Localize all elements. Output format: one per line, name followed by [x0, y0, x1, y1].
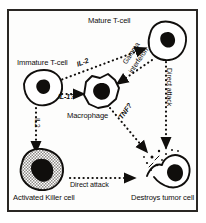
diagram-canvas: Immature T-cell Mature T-cell Macrophage… — [0, 0, 206, 223]
label-il2-left: IL2 — [33, 118, 40, 128]
label-macrophage: Macrophage — [67, 112, 108, 120]
cell-macrophage — [84, 74, 119, 108]
label-direct-attack-bottom: Direct attack — [70, 181, 109, 188]
label-direct-attack-right: Direct attack — [165, 68, 172, 106]
label-immature-t-cell: Immature T-cell — [17, 59, 68, 67]
label-il1: IL-1? — [58, 94, 74, 101]
cell-activated-killer-cell — [21, 149, 63, 190]
cell-tumor — [143, 149, 190, 187]
label-activated-killer-cell: Activated Killer cell — [13, 194, 75, 202]
cell-immature-t-cell — [24, 70, 62, 105]
cell-mature-t-cell — [149, 22, 187, 61]
label-mature-t-cell: Mature T-cell — [88, 17, 130, 25]
label-tumor-cell: Destroys tumor cell — [131, 194, 194, 202]
